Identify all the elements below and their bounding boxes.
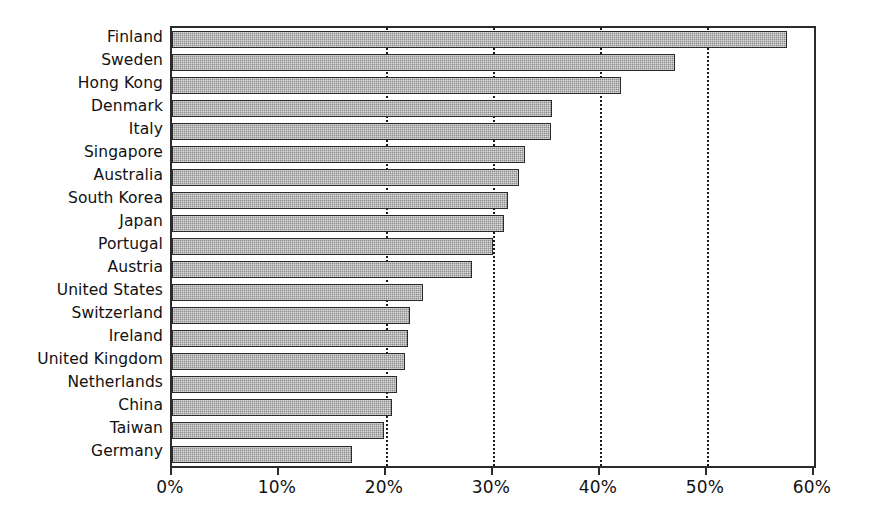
bar-row bbox=[172, 282, 814, 305]
axis-tick bbox=[491, 466, 493, 475]
bar-row bbox=[172, 97, 814, 120]
category-label: Finland bbox=[0, 30, 163, 46]
bar bbox=[172, 376, 397, 393]
bar-row bbox=[172, 235, 814, 258]
axis-tick-label: 10% bbox=[258, 479, 296, 496]
bar-row bbox=[172, 397, 814, 420]
bar bbox=[172, 261, 472, 278]
bar-row bbox=[172, 120, 814, 143]
plot-area bbox=[170, 26, 816, 468]
category-label: Taiwan bbox=[0, 421, 163, 437]
category-label: Germany bbox=[0, 444, 163, 460]
category-label: Ireland bbox=[0, 329, 163, 345]
bar-row bbox=[172, 212, 814, 235]
bar-row bbox=[172, 305, 814, 328]
bar-chart: FinlandSwedenHong KongDenmarkItalySingap… bbox=[0, 0, 869, 532]
category-label: Singapore bbox=[0, 145, 163, 161]
bar-row bbox=[172, 51, 814, 74]
category-label: Netherlands bbox=[0, 375, 163, 391]
axis-tick bbox=[812, 466, 814, 475]
axis-tick bbox=[170, 466, 172, 475]
bar bbox=[172, 77, 621, 94]
category-label: Austria bbox=[0, 260, 163, 276]
bar-row bbox=[172, 166, 814, 189]
bar-row bbox=[172, 143, 814, 166]
category-label: Italy bbox=[0, 122, 163, 138]
category-label: Sweden bbox=[0, 53, 163, 69]
bar-row bbox=[172, 351, 814, 374]
bar-row bbox=[172, 420, 814, 443]
axis-tick bbox=[384, 466, 386, 475]
category-label: Japan bbox=[0, 214, 163, 230]
category-label: United States bbox=[0, 283, 163, 299]
bar bbox=[172, 54, 675, 71]
bar bbox=[172, 192, 508, 209]
bar bbox=[172, 100, 552, 117]
axis-tick-label: 0% bbox=[156, 479, 183, 496]
bar-row bbox=[172, 189, 814, 212]
category-label: Hong Kong bbox=[0, 76, 163, 92]
bar bbox=[172, 31, 787, 48]
axis-tick-label: 50% bbox=[686, 479, 724, 496]
bar bbox=[172, 238, 493, 255]
category-axis: FinlandSwedenHong KongDenmarkItalySingap… bbox=[0, 26, 163, 464]
bar-row bbox=[172, 443, 814, 466]
bar bbox=[172, 123, 551, 140]
bar-row bbox=[172, 259, 814, 282]
category-label: China bbox=[0, 398, 163, 414]
plot-inner bbox=[172, 28, 814, 466]
category-label: Denmark bbox=[0, 99, 163, 115]
category-label: Portugal bbox=[0, 237, 163, 253]
axis-tick-label: 20% bbox=[365, 479, 403, 496]
bar-row bbox=[172, 374, 814, 397]
axis-tick-label: 60% bbox=[793, 479, 831, 496]
bar bbox=[172, 215, 504, 232]
bar-row bbox=[172, 28, 814, 51]
bar bbox=[172, 422, 384, 439]
bar bbox=[172, 284, 423, 301]
category-label: Switzerland bbox=[0, 306, 163, 322]
bar bbox=[172, 446, 352, 463]
category-label: South Korea bbox=[0, 191, 163, 207]
bar bbox=[172, 353, 405, 370]
bar bbox=[172, 169, 519, 186]
bar bbox=[172, 146, 525, 163]
bar bbox=[172, 330, 408, 347]
axis-tick-label: 40% bbox=[579, 479, 617, 496]
axis-tick bbox=[705, 466, 707, 475]
value-axis-labels: 0%10%20%30%40%50%60% bbox=[0, 479, 869, 507]
bar-row bbox=[172, 328, 814, 351]
bar-row bbox=[172, 74, 814, 97]
axis-tick-label: 30% bbox=[472, 479, 510, 496]
bar bbox=[172, 307, 410, 324]
category-label: Australia bbox=[0, 168, 163, 184]
axis-tick bbox=[277, 466, 279, 475]
axis-tick bbox=[598, 466, 600, 475]
category-label: United Kingdom bbox=[0, 352, 163, 368]
bar bbox=[172, 399, 392, 416]
value-axis-ticks bbox=[170, 466, 812, 475]
